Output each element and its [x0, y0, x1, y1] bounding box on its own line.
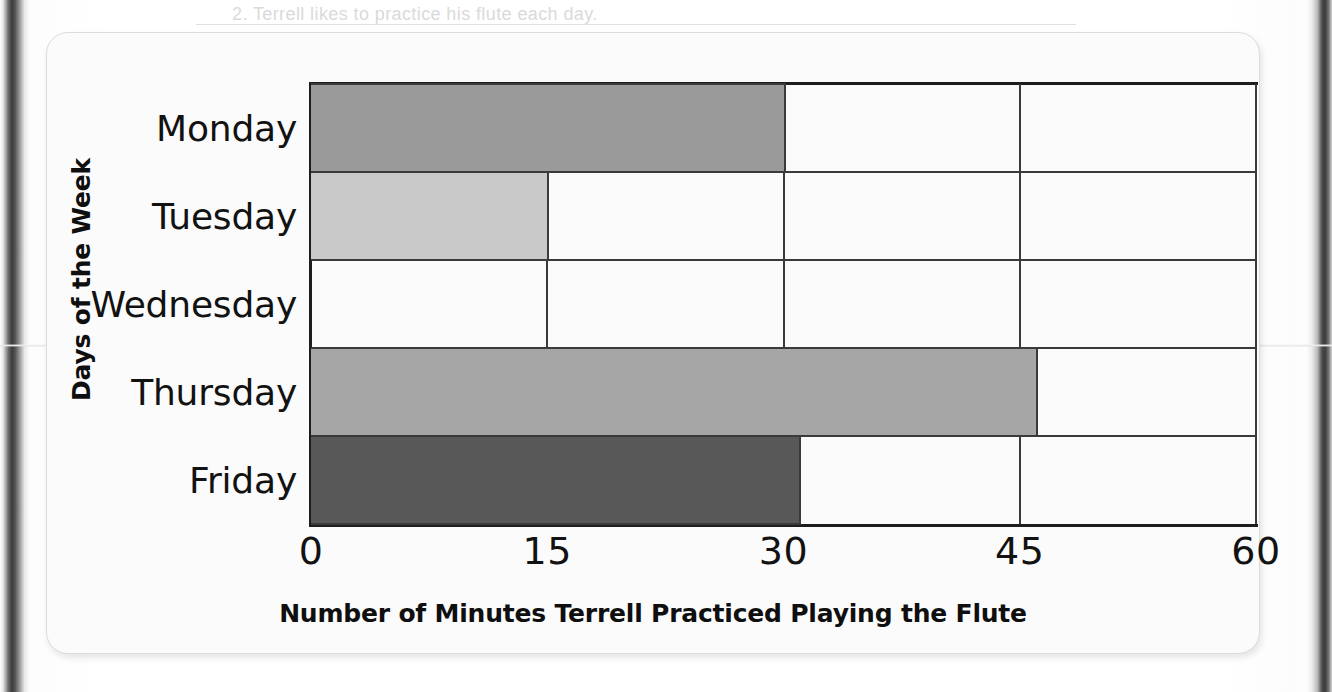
gridline-x-60 — [1255, 84, 1257, 524]
x-axis-tick-labels: 015304560 — [311, 529, 1256, 585]
x-axis-tick-45: 45 — [995, 529, 1044, 573]
y-axis-label-friday: Friday — [189, 436, 297, 524]
x-axis-tick-0: 0 — [299, 529, 324, 573]
bar-thursday — [311, 347, 1038, 437]
bar-chart-figure-card: Days of the Week MondayTuesdayWednesdayT… — [46, 32, 1260, 654]
gridline-x-45 — [1019, 84, 1021, 524]
scanned-worksheet-page: 2. Terrell likes to practice his flute e… — [0, 0, 1332, 692]
y-axis-label-monday: Monday — [156, 84, 297, 172]
bar-friday — [311, 435, 801, 525]
x-axis-tick-15: 15 — [523, 529, 572, 573]
book-binding-right-edge — [1306, 0, 1332, 692]
y-axis-category-labels: MondayTuesdayWednesdayThursdayFriday — [87, 84, 305, 524]
book-binding-left-edge — [0, 0, 30, 692]
bleed-through-text-top: 2. Terrell likes to practice his flute e… — [232, 4, 598, 25]
x-axis-title: Number of Minutes Terrell Practiced Play… — [47, 599, 1259, 628]
y-axis-label-thursday: Thursday — [131, 348, 297, 436]
bar-chart: Days of the Week MondayTuesdayWednesdayT… — [47, 33, 1259, 653]
bar-monday — [311, 83, 786, 173]
plot-area — [311, 84, 1256, 524]
bleed-through-rule-top — [196, 24, 1076, 25]
x-axis-tick-30: 30 — [759, 529, 808, 573]
x-axis-tick-60: 60 — [1231, 529, 1280, 573]
y-axis-label-tuesday: Tuesday — [152, 172, 297, 260]
bar-tuesday — [311, 171, 549, 261]
y-axis-label-wednesday: Wednesday — [90, 260, 297, 348]
